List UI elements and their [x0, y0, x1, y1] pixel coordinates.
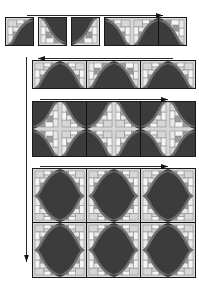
- tile: [168, 61, 195, 88]
- tile: [114, 129, 141, 156]
- tile: [114, 169, 141, 196]
- tile: [60, 169, 87, 196]
- tile: [39, 18, 66, 45]
- tile: [168, 169, 195, 196]
- tile: [87, 61, 114, 88]
- tile: [114, 223, 141, 250]
- tile: [87, 250, 114, 277]
- tile: [105, 18, 132, 45]
- tile: [87, 223, 114, 250]
- tile: [87, 102, 114, 129]
- tile: [114, 61, 141, 88]
- tile: [60, 61, 87, 88]
- tile: [114, 196, 141, 223]
- tile: [33, 196, 60, 223]
- tile: [168, 102, 195, 129]
- tile: [87, 169, 114, 196]
- tile: [141, 196, 168, 223]
- tile: [141, 129, 168, 156]
- block-1b[interactable]: [38, 17, 67, 46]
- block-3[interactable]: [32, 101, 196, 157]
- tile: [141, 223, 168, 250]
- block-2[interactable]: [32, 60, 196, 89]
- tile: [87, 196, 114, 223]
- tile: [87, 129, 114, 156]
- tile: [60, 196, 87, 223]
- tile: [141, 102, 168, 129]
- tile: [168, 196, 195, 223]
- tile: [33, 250, 60, 277]
- tile: [60, 250, 87, 277]
- figure-root: [0, 0, 199, 294]
- tile: [60, 129, 87, 156]
- tile: [60, 102, 87, 129]
- block-4[interactable]: [32, 168, 196, 278]
- tile: [159, 18, 186, 45]
- tile: [168, 250, 195, 277]
- tile: [141, 61, 168, 88]
- tile: [114, 102, 141, 129]
- block-1c[interactable]: [71, 17, 100, 46]
- tile: [60, 223, 87, 250]
- tile: [33, 61, 60, 88]
- tile: [33, 169, 60, 196]
- tile: [72, 18, 99, 45]
- block-1d[interactable]: [104, 17, 187, 46]
- tile: [33, 223, 60, 250]
- tile: [6, 18, 33, 45]
- tile: [168, 129, 195, 156]
- tile: [33, 102, 60, 129]
- tile: [132, 18, 159, 45]
- tile: [141, 250, 168, 277]
- tile: [141, 169, 168, 196]
- tile: [33, 129, 60, 156]
- tile: [114, 250, 141, 277]
- arrow-vertical-growth: [22, 57, 31, 262]
- tile: [168, 223, 195, 250]
- block-1a[interactable]: [5, 17, 34, 46]
